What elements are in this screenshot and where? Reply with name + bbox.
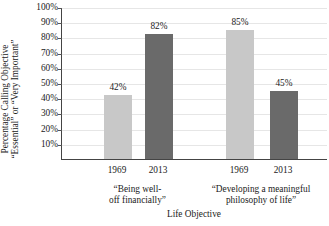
- x-axis-tick-label: 2013: [259, 166, 307, 175]
- y-axis-tick-label: 70%: [22, 49, 58, 58]
- gridline: [62, 8, 327, 9]
- y-axis-tick: [58, 69, 62, 70]
- gridline: [62, 54, 327, 55]
- gridline: [62, 38, 327, 39]
- bar-value-label: 82%: [135, 22, 183, 31]
- y-axis-tick: [58, 54, 62, 55]
- y-axis-tick: [58, 23, 62, 24]
- y-axis-tick: [58, 114, 62, 115]
- bar: [145, 34, 173, 159]
- y-axis-tick: [58, 8, 62, 9]
- y-axis-tick: [58, 145, 62, 146]
- y-axis-tick-label: 60%: [22, 64, 58, 73]
- y-axis-tick-label: 90%: [22, 19, 58, 28]
- y-axis-tick-label: 100%: [22, 3, 58, 12]
- y-axis-tick-label: 40%: [22, 95, 58, 104]
- y-axis-tick-label: 10%: [22, 140, 58, 149]
- y-axis-tick-label: 50%: [22, 79, 58, 88]
- y-axis-tick: [58, 38, 62, 39]
- x-axis-tick-label: 1969: [215, 166, 263, 175]
- x-axis-title: Life Objective: [61, 210, 327, 219]
- y-axis-tick-label: 20%: [22, 125, 58, 134]
- bar-value-label: 85%: [216, 18, 264, 27]
- y-axis-tick: [58, 84, 62, 85]
- bar: [226, 30, 254, 159]
- group-label-line1: “Developing a meaningful: [183, 184, 329, 195]
- group-label-line2: philosophy of life”: [183, 195, 329, 206]
- y-axis-tick-labels: 100%90%80%70%60%50%40%30%20%10%: [22, 8, 58, 160]
- y-axis-tick: [58, 99, 62, 100]
- x-axis-group-label: “Being well-off financially”: [78, 184, 198, 206]
- bar: [270, 91, 298, 159]
- gridline: [62, 69, 327, 70]
- x-axis-group-label: “Developing a meaningfulphilosophy of li…: [183, 184, 329, 206]
- y-axis-title-line2: “Essential” or “Very Important”: [10, 40, 20, 159]
- y-axis-tick-label: 30%: [22, 110, 58, 119]
- gridline: [62, 23, 327, 24]
- y-axis-tick: [58, 130, 62, 131]
- bar-value-label: 42%: [94, 83, 142, 92]
- y-axis-tick-label: 80%: [22, 34, 58, 43]
- plot-area: 42%82%85%45%: [61, 8, 327, 160]
- group-label-line1: “Being well-: [78, 184, 198, 195]
- bar-value-label: 45%: [260, 79, 308, 88]
- bar-chart: Percentage Calling Objective “Essential”…: [0, 0, 329, 226]
- group-label-line2: off financially”: [78, 195, 198, 206]
- bar: [104, 95, 132, 159]
- y-axis-title-line1: Percentage Calling Objective: [0, 45, 10, 154]
- x-axis-tick-label: 2013: [134, 166, 182, 175]
